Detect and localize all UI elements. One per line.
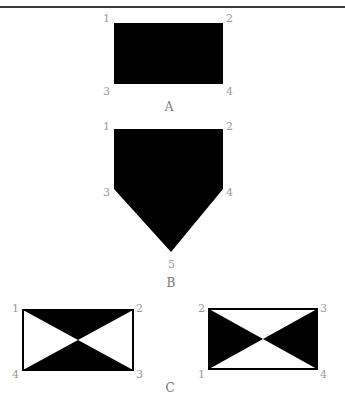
figure-c-left-corner-1: 1	[12, 302, 19, 315]
figure-b-pentagon	[114, 129, 223, 252]
figure-c-left-corner-4: 4	[12, 368, 19, 381]
figure-b-corner-1: 1	[103, 120, 110, 133]
figure-c-left-corner-2: 2	[136, 302, 143, 315]
figure-a-corner-4: 4	[226, 85, 233, 98]
figure-a-corner-3: 3	[103, 85, 110, 98]
figure-a-corner-1: 1	[103, 12, 110, 25]
figure-a-corner-2: 2	[226, 12, 233, 25]
figure-a: 1 2 3 4 A	[103, 12, 233, 114]
figure-c-right-corner-1: 1	[198, 368, 205, 381]
figure-c-right-corner-4: 4	[320, 368, 327, 381]
figure-c-right: 1 2 3 4	[198, 302, 327, 381]
figure-b: 1 2 3 4 5 B	[103, 120, 233, 290]
figure-b-corner-2: 2	[226, 120, 233, 133]
figure-c-left-corner-3: 3	[136, 368, 143, 381]
figure-c-left: 1 2 3 4	[12, 302, 143, 381]
figure-c-right-corner-3: 3	[320, 302, 327, 315]
figure-b-corner-4: 4	[226, 186, 233, 199]
figure-a-caption: A	[164, 100, 174, 114]
figure-b-corner-3: 3	[103, 186, 110, 199]
figure-b-caption: B	[167, 276, 176, 290]
figure-c-caption: C	[165, 381, 174, 395]
figure-c-right-corner-2: 2	[198, 302, 205, 315]
figure-a-rectangle	[114, 23, 223, 84]
figure-b-corner-5: 5	[168, 258, 175, 271]
diagram-canvas: 1 2 3 4 A 1 2 3 4 5 B 1 2 3 4 1 2 3 4 C	[0, 0, 345, 413]
